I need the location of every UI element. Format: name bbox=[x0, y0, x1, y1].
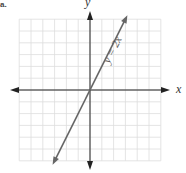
coordinate-plane: y = 2x bbox=[0, 0, 186, 173]
x-axis-label: x bbox=[176, 82, 181, 97]
y-axis-down-arrow-icon bbox=[87, 161, 93, 170]
x-axis-right-arrow-icon bbox=[161, 87, 170, 93]
line-label: y = 2x bbox=[100, 34, 124, 66]
y-axis-label: y bbox=[85, 0, 90, 10]
y-axis-up-arrow-icon bbox=[87, 11, 93, 20]
x-axis-left-arrow-icon bbox=[10, 87, 19, 93]
